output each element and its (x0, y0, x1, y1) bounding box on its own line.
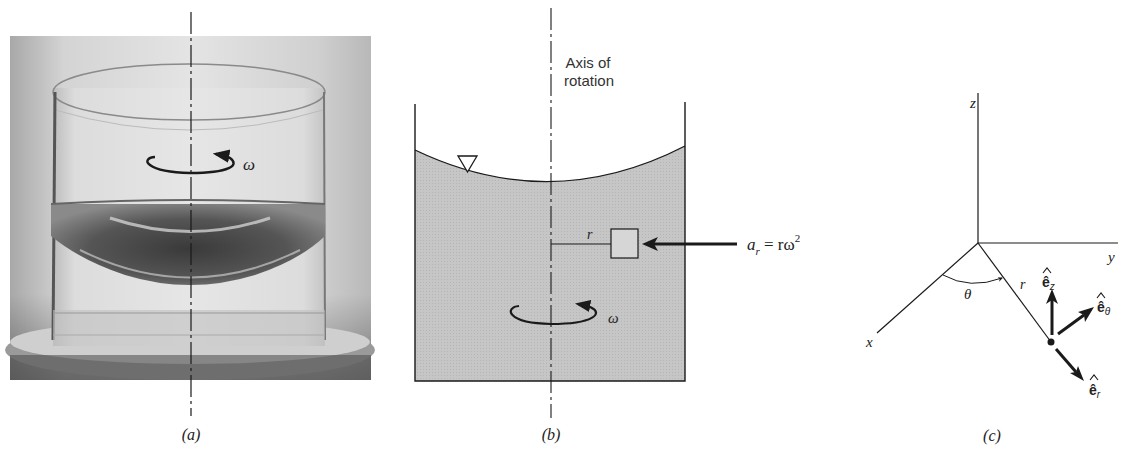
svg-text:êθ: êθ (1097, 299, 1111, 317)
accel-sup: 2 (795, 232, 801, 244)
ez-base: ê (1042, 274, 1050, 290)
z-axis-label: z (969, 95, 976, 111)
x-axis-label: x (865, 334, 873, 350)
svg-text:êz: êz (1042, 274, 1055, 292)
etheta-sub: θ (1105, 306, 1111, 317)
y-axis-label: y (1106, 249, 1115, 265)
caption-a: (a) (182, 426, 201, 444)
panel-c-cylindrical-coords: z y x r θ êz êθ (865, 93, 1118, 400)
accel-eq: = rω (760, 235, 795, 254)
caption-b: (b) (542, 426, 561, 444)
svg-text:ar = rω2: ar = rω2 (747, 232, 800, 257)
panel-a-photo (5, 36, 375, 380)
acceleration-formula: ar = rω2 (747, 232, 800, 257)
axis-label-line1: Axis of (565, 54, 611, 71)
omega-label: ω (243, 155, 255, 174)
arrowhead-icon (1078, 307, 1094, 322)
point-marker (1048, 339, 1055, 346)
radius-label: r (1020, 277, 1026, 292)
theta-label: θ (964, 286, 972, 302)
er-base: ê (1089, 382, 1097, 398)
unit-vector-etheta (1058, 315, 1084, 334)
ez-label: êz (1042, 268, 1055, 292)
caption-c: (c) (983, 427, 1001, 445)
er-label: êr (1089, 375, 1101, 400)
fluid-element (611, 229, 638, 258)
er-sub: r (1097, 389, 1101, 400)
etheta-base: ê (1097, 299, 1105, 315)
etheta-label: êθ (1097, 293, 1111, 317)
axis-label-line2: rotation (564, 72, 614, 89)
svg-text:êr: êr (1089, 382, 1101, 400)
theta-arc-arrow (943, 275, 1002, 283)
radius-line (978, 243, 1051, 342)
rotating-fluid-figure: ω (a) Axis of rotation r ar = rω2 ω (b (0, 0, 1122, 464)
x-axis (877, 243, 978, 333)
accel-a: a (747, 235, 756, 254)
radius-label: r (587, 227, 593, 242)
panel-b-schematic: Axis of rotation r ar = rω2 ω (415, 8, 800, 418)
omega-label: ω (608, 310, 619, 326)
ez-sub: z (1049, 281, 1055, 292)
unit-vector-er (1056, 349, 1076, 372)
